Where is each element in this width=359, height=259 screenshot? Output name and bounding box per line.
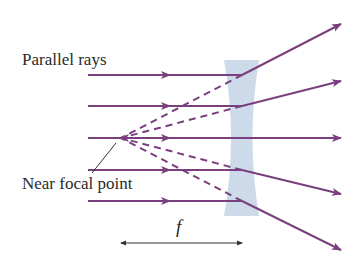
focal-point-pointer bbox=[92, 143, 116, 173]
parallel-rays-label: Parallel rays bbox=[22, 50, 107, 70]
refracted-rays bbox=[242, 24, 341, 250]
near-focal-point-label: Near focal point bbox=[22, 174, 132, 194]
focal-length-label: f bbox=[176, 216, 181, 238]
